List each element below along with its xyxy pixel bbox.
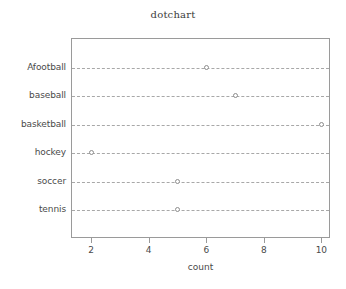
- data-point-hockey: [89, 150, 94, 155]
- x-tick-mark-8: [264, 238, 265, 243]
- chart-title: dotchart: [0, 9, 346, 20]
- dotchart-figure: dotchart count tennissoccerhockeybasketb…: [0, 0, 346, 289]
- x-tick-mark-4: [149, 238, 150, 243]
- data-point-Afootball: [204, 65, 209, 70]
- gridline-tennis: [72, 210, 329, 211]
- x-tick-label-6: 6: [203, 245, 209, 255]
- gridline-Afootball: [72, 68, 329, 69]
- gridline-soccer: [72, 182, 329, 183]
- y-axis-label-basketball: basketball: [21, 119, 66, 129]
- x-tick-mark-2: [91, 238, 92, 243]
- data-point-basketball: [319, 122, 324, 127]
- plot-area: [71, 38, 330, 238]
- y-axis-label-baseball: baseball: [29, 90, 66, 100]
- gridline-baseball: [72, 96, 329, 97]
- x-tick-mark-10: [321, 238, 322, 243]
- y-axis-label-soccer: soccer: [37, 176, 66, 186]
- x-tick-label-2: 2: [88, 245, 94, 255]
- x-tick-label-8: 8: [261, 245, 267, 255]
- x-tick-mark-6: [206, 238, 207, 243]
- x-tick-label-4: 4: [146, 245, 152, 255]
- x-axis-title: count: [71, 262, 330, 272]
- gridline-hockey: [72, 153, 329, 154]
- data-point-baseball: [233, 93, 238, 98]
- data-point-tennis: [175, 207, 180, 212]
- y-axis-label-tennis: tennis: [39, 204, 66, 214]
- gridline-basketball: [72, 125, 329, 126]
- data-point-soccer: [175, 179, 180, 184]
- y-axis-label-hockey: hockey: [35, 147, 66, 157]
- y-axis-label-Afootball: Afootball: [27, 62, 66, 72]
- x-tick-label-10: 10: [316, 245, 327, 255]
